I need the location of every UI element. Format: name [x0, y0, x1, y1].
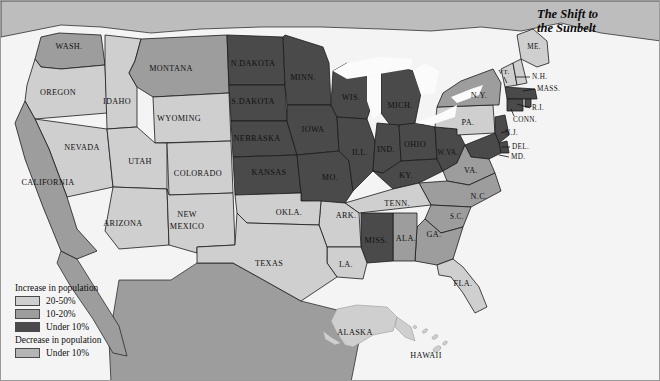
- state-label-vermont: VT.: [498, 68, 509, 75]
- state-label-arizona: ARIZONA: [103, 219, 142, 228]
- state-label-california: CALIFORNIA: [21, 178, 74, 187]
- state-label-new-mexico-2: MEXICO: [170, 222, 204, 231]
- state-label-rhode-island: R.I.: [532, 104, 544, 112]
- state-label-kansas: KANSAS: [252, 168, 287, 177]
- legend-swatch-increase-10-20: [15, 309, 40, 319]
- state-label-new-york: N.Y.: [471, 91, 487, 100]
- state-label-massachusetts: MASS.: [537, 85, 560, 93]
- state-label-north-dakota: N.DAKOTA: [231, 59, 276, 68]
- map-title-line2: the Sunbelt: [537, 21, 649, 35]
- map-figure: WASH. OREGON IDAHO MONTANA WYOMING NEVAD…: [0, 0, 660, 381]
- state-label-utah: UTAH: [128, 157, 151, 166]
- state-label-nevada: NEVADA: [64, 143, 100, 152]
- state-label-kentucky: KY.: [399, 171, 413, 180]
- state-label-colorado: COLORADO: [174, 169, 222, 178]
- map-title-line1: The Shift to: [537, 7, 649, 21]
- state-label-maryland: MD.: [511, 153, 525, 161]
- state-label-maine: ME.: [527, 43, 541, 51]
- legend-item-decrease-under-10: Under 10%: [15, 347, 147, 359]
- legend: Increase in population 20-50% 10-20% Und…: [15, 282, 147, 360]
- state-label-north-carolina: N.C.: [471, 192, 488, 201]
- state-label-alaska: ALASKA: [337, 328, 372, 337]
- legend-heading-increase: Increase in population: [15, 282, 147, 294]
- state-label-washington: WASH.: [56, 42, 83, 51]
- state-label-mississippi: MISS.: [365, 236, 388, 245]
- state-label-hawaii: HAWAII: [410, 351, 441, 360]
- state-rhode-island: [525, 99, 531, 107]
- state-label-alabama: ALA.: [396, 234, 416, 243]
- legend-swatch-increase-under-10: [15, 322, 40, 332]
- state-label-new-jersey: N.J.: [505, 129, 518, 137]
- state-washington: [35, 33, 105, 69]
- state-label-connecticut: CONN.: [513, 116, 537, 124]
- state-label-michigan: MICH.: [387, 101, 412, 110]
- legend-item-increase-20-50: 20-50%: [15, 295, 147, 307]
- legend-swatch-decrease-under-10: [15, 348, 40, 358]
- state-label-south-dakota: S.DAKOTA: [231, 97, 274, 106]
- state-label-wyoming: WYOMING: [157, 114, 201, 123]
- state-label-nebraska: NEBRASKA: [234, 134, 281, 143]
- state-label-florida: FLA.: [454, 279, 473, 288]
- state-label-montana: MONTANA: [149, 64, 193, 73]
- state-label-georgia: GA.: [427, 230, 442, 239]
- legend-swatch-increase-20-50: [15, 296, 40, 306]
- legend-item-increase-under-10: Under 10%: [15, 321, 147, 333]
- state-massachusetts: [505, 87, 537, 99]
- state-label-missouri: MO.: [322, 173, 338, 182]
- state-label-indiana: IND.: [377, 145, 395, 154]
- state-label-wisconsin: WIS.: [342, 93, 360, 102]
- legend-heading-decrease: Decrease in population: [15, 334, 147, 346]
- state-label-oklahoma: OKLA.: [276, 208, 303, 217]
- legend-label-decrease-under-10: Under 10%: [46, 347, 89, 359]
- state-label-idaho: IDAHO: [103, 97, 131, 106]
- legend-label-increase-10-20: 10-20%: [46, 308, 76, 320]
- state-label-pennsylvania: PA.: [462, 118, 475, 127]
- legend-label-increase-under-10: Under 10%: [46, 321, 89, 333]
- state-label-tennessee: TENN.: [384, 199, 410, 208]
- state-label-new-hampshire: N.H.: [532, 73, 547, 81]
- state-label-illinois: ILL.: [352, 148, 368, 157]
- state-label-delaware: DEL.: [512, 143, 529, 151]
- state-label-new-mexico: NEW: [177, 210, 197, 219]
- state-label-iowa: IOWA: [302, 125, 325, 134]
- state-label-oregon: OREGON: [40, 88, 76, 97]
- state-label-virginia: VA.: [464, 166, 478, 175]
- legend-label-increase-20-50: 20-50%: [46, 295, 76, 307]
- state-label-louisiana: LA.: [339, 260, 353, 269]
- state-label-arkansas: ARK.: [336, 211, 357, 220]
- state-label-west-virginia: W.VA.: [438, 149, 459, 157]
- map-title: The Shift to the Sunbelt: [537, 7, 649, 35]
- state-label-south-carolina: S.C.: [450, 213, 464, 221]
- state-label-ohio: OHIO: [404, 140, 426, 149]
- legend-item-increase-10-20: 10-20%: [15, 308, 147, 320]
- state-label-minnesota: MINN.: [290, 73, 316, 82]
- state-label-texas: TEXAS: [255, 259, 283, 268]
